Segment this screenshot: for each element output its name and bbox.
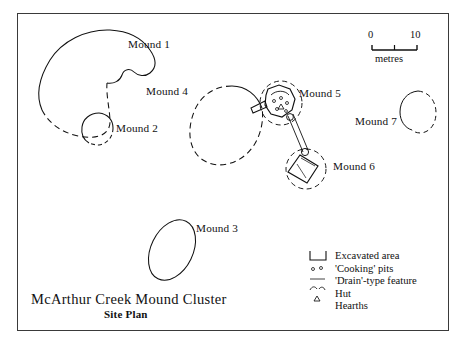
page-title: McArthur Creek Mound Cluster (31, 291, 227, 308)
mound-2-label: Mound 2 (116, 122, 158, 134)
legend-label-drain-feature: 'Drain'-type feature (335, 275, 417, 286)
legend-symbols (310, 251, 326, 301)
mound-2-outline (82, 113, 113, 145)
mound-4-label: Mound 4 (146, 85, 188, 97)
mound-7-outline (400, 91, 436, 133)
legend-label-cooking-pits: 'Cooking' pits (335, 263, 393, 274)
hearths-symbol (314, 296, 320, 301)
scale-units-label: metres (375, 53, 403, 64)
page-subtitle: Site Plan (104, 308, 148, 320)
scale-bar (372, 45, 417, 50)
legend-label-hut: Hut (335, 288, 351, 299)
mound-5-hearth (278, 104, 284, 109)
mound-7-label: Mound 7 (355, 115, 397, 127)
mound-6-excavated-area (288, 155, 318, 183)
scale-end-label: 10 (410, 29, 421, 40)
hut-symbol (310, 287, 325, 290)
drain-type-feature (287, 114, 309, 156)
legend-label-hearths: Hearths (335, 300, 368, 311)
scale-start-label: 0 (368, 29, 373, 40)
mound-3-label: Mound 3 (196, 222, 238, 234)
excavated-area-symbol (310, 251, 326, 260)
mound-4-outline (190, 86, 263, 165)
cooking-pits-symbol (312, 267, 323, 271)
mound-5-hut-arc (271, 91, 289, 95)
site-plan-figure: Mound 1 Mound 2 Mound 3 Mound 4 Mound 5 … (0, 0, 464, 348)
legend-label-excavated-area: Excavated area (335, 250, 399, 261)
mound-5-outline (260, 81, 302, 125)
mound-5-label: Mound 5 (299, 87, 341, 99)
mound-6-label: Mound 6 (333, 160, 375, 172)
mound-5-excavated-area (265, 85, 295, 117)
mound-1-label: Mound 1 (128, 38, 170, 50)
